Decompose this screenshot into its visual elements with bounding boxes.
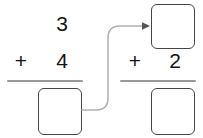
right-plus-operator: +	[124, 50, 146, 71]
left-plus-operator: +	[10, 50, 32, 71]
right-sum-rule	[120, 80, 196, 82]
left-answer-box[interactable]	[38, 88, 82, 135]
right-top-operand-box[interactable]	[151, 4, 195, 49]
left-addend-top: 3	[51, 13, 73, 34]
arrowhead-icon	[142, 22, 150, 30]
worksheet-canvas: 3 + 4 + 2	[0, 0, 203, 138]
right-addend-bottom: 2	[164, 50, 186, 71]
right-answer-box[interactable]	[151, 88, 195, 135]
left-sum-rule	[7, 80, 83, 82]
left-addend-bottom: 4	[51, 50, 73, 71]
